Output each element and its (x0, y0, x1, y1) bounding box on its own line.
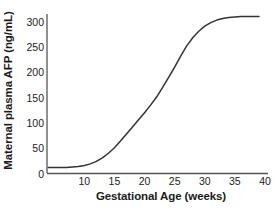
x-tick-labels: 10 15 20 25 30 35 40 (0, 176, 277, 190)
chart-figure: 300 250 200 150 100 50 0 10 15 20 25 30 … (0, 0, 277, 211)
x-tick-30: 30 (192, 176, 218, 186)
x-tick-15: 15 (101, 176, 127, 186)
afp-curve (48, 17, 259, 168)
x-tick-35: 35 (222, 176, 248, 186)
y-tick-100: 100 (20, 118, 44, 128)
x-axis-title: Gestational Age (weeks) (47, 190, 275, 202)
y-tick-300: 300 (20, 17, 44, 27)
y-axis-title: Maternal plasma AFP (ng/mL) (0, 3, 16, 178)
x-tick-20: 20 (132, 176, 158, 186)
y-tick-250: 250 (20, 42, 44, 52)
y-tick-150: 150 (20, 93, 44, 103)
y-tick-50: 50 (20, 143, 44, 153)
y-tick-200: 200 (20, 67, 44, 77)
x-tick-40: 40 (252, 176, 277, 186)
x-tick-10: 10 (71, 176, 97, 186)
x-tick-25: 25 (162, 176, 188, 186)
